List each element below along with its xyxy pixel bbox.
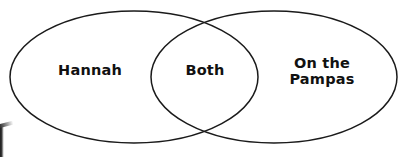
venn-diagram: Hannah Both On the Pampas xyxy=(0,0,418,157)
venn-label-right: On the Pampas xyxy=(282,55,362,87)
venn-label-left: Hannah xyxy=(30,62,150,78)
venn-label-intersection: Both xyxy=(170,62,240,78)
page-edge-artifact xyxy=(0,126,4,157)
